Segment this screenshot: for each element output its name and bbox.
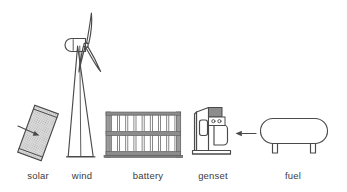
genset-control-box	[209, 117, 226, 126]
label-fuel: fuel	[285, 170, 301, 181]
battery-shelf-beam-bottom	[106, 152, 181, 156]
battery-cell	[111, 115, 117, 131]
battery-cell	[161, 136, 167, 152]
battery-cell	[144, 136, 150, 152]
battery-cell	[169, 115, 175, 131]
battery-cell	[136, 136, 142, 152]
diagram-canvas: solar wind	[0, 0, 347, 192]
label-battery: battery	[133, 170, 163, 181]
genset-radiator-panel	[209, 108, 223, 118]
canvas-background	[0, 0, 347, 192]
battery-cell	[120, 136, 126, 152]
component-diagram: solar wind	[0, 0, 347, 192]
battery-cell	[169, 136, 175, 152]
battery-shelf-beam-top	[106, 112, 181, 115]
battery-cell	[161, 115, 167, 131]
battery-cell	[128, 136, 134, 152]
label-wind: wind	[71, 170, 92, 181]
battery-cell	[136, 115, 142, 131]
label-genset: genset	[198, 170, 228, 181]
battery-rack-foot	[104, 156, 183, 158]
battery-cell	[152, 115, 158, 131]
battery-cell	[111, 136, 117, 152]
battery-cell	[120, 115, 126, 131]
battery-shelf-beam-middle	[106, 132, 181, 136]
battery-cell	[152, 136, 158, 152]
label-solar: solar	[27, 170, 49, 181]
battery-cell	[128, 115, 134, 131]
battery-cell	[144, 115, 150, 131]
